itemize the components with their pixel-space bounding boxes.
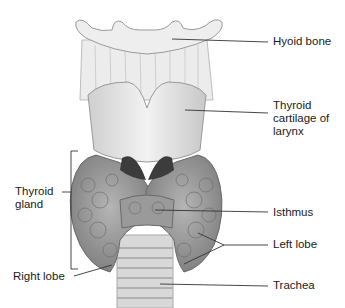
label-trachea: Trachea <box>273 279 315 292</box>
label-isthmus: Isthmus <box>273 206 313 219</box>
thyroid-diagram: Hyoid bone Thyroid cartilage of larynx T… <box>0 0 345 308</box>
trachea-leader <box>160 284 268 286</box>
trachea-shape <box>117 235 173 308</box>
label-thyroid-gland: Thyroid gland <box>15 185 53 211</box>
isthmus-shape <box>120 195 174 228</box>
label-right-lobe: Right lobe <box>13 270 65 283</box>
label-thyroid-cartilage: Thyroid cartilage of larynx <box>273 99 329 138</box>
label-left-lobe: Left lobe <box>273 238 317 251</box>
label-hyoid-bone: Hyoid bone <box>273 35 331 48</box>
